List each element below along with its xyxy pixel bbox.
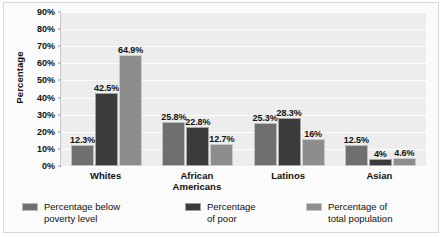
bar: 28.3% (278, 118, 301, 166)
bar-value-label: 12.3% (70, 135, 95, 145)
bar-value-label: 28.3% (277, 108, 302, 118)
x-axis-category-label: AfricanAmericans (151, 170, 242, 192)
legend-item[interactable]: Percentageof poor (185, 201, 306, 224)
bar-value-label: 16% (304, 129, 322, 139)
bar-value-label: 12.5% (344, 135, 369, 145)
bar: 4.6% (393, 158, 416, 166)
bar: 16% (302, 139, 325, 166)
bar-group: 25.8%22.8%12.7% (152, 12, 243, 166)
y-axis-tick-label: 60% (0, 58, 61, 68)
bar-value-label: 25.8% (161, 112, 186, 122)
x-axis-category-label: Whites (60, 170, 151, 181)
bar-value-label: 64.9% (118, 45, 143, 55)
y-axis-tick-label: 20% (0, 127, 61, 137)
y-axis-tick-label: 80% (0, 24, 61, 34)
chart-legend: Percentage belowpoverty levelPercentageo… (22, 201, 432, 224)
bar: 25.8% (162, 122, 185, 166)
bar-chart: Percentage 90%80%70%60%50%40%30%20%10%0%… (0, 0, 444, 237)
x-axis-category-label: Latinos (243, 170, 334, 181)
y-axis-tick-label: 50% (0, 75, 61, 85)
bar-value-label: 22.8% (185, 117, 210, 127)
bar: 4% (369, 159, 392, 166)
gridline (61, 166, 426, 167)
plot-area: 90%80%70%60%50%40%30%20%10%0%12.3%42.5%6… (60, 12, 426, 167)
bar-group: 12.5%4%4.6% (335, 12, 426, 166)
bar: 64.9% (119, 55, 142, 166)
legend-label: Percentage oftotal population (328, 201, 392, 224)
legend-item[interactable]: Percentage belowpoverty level (22, 201, 185, 224)
bar: 12.3% (71, 145, 94, 166)
bar: 12.7% (210, 144, 233, 166)
legend-label: Percentageof poor (207, 201, 256, 224)
y-axis-tick-label: 70% (0, 41, 61, 51)
bar-value-label: 25.3% (253, 113, 278, 123)
bar-value-label: 42.5% (94, 83, 119, 93)
y-axis-tick-label: 40% (0, 93, 61, 103)
x-axis-category-label: Asian (334, 170, 425, 181)
legend-swatch (306, 203, 322, 211)
legend-swatch (185, 203, 201, 211)
y-axis-tick-label: 10% (0, 144, 61, 154)
bar: 12.5% (345, 145, 368, 166)
y-axis-tick-label: 0% (0, 161, 61, 171)
legend-item[interactable]: Percentage oftotal population (306, 201, 432, 224)
bar: 42.5% (95, 93, 118, 166)
bar: 25.3% (254, 123, 277, 166)
bar-value-label: 4% (374, 149, 387, 159)
bar-group: 12.3%42.5%64.9% (61, 12, 152, 166)
bar: 22.8% (186, 127, 209, 166)
bar-group: 25.3%28.3%16% (244, 12, 335, 166)
legend-swatch (22, 203, 38, 211)
bar-value-label: 12.7% (209, 134, 234, 144)
legend-label: Percentage belowpoverty level (44, 201, 120, 224)
bar-value-label: 4.6% (394, 148, 414, 158)
y-axis-tick-label: 90% (0, 7, 61, 17)
y-axis-tick-label: 30% (0, 110, 61, 120)
